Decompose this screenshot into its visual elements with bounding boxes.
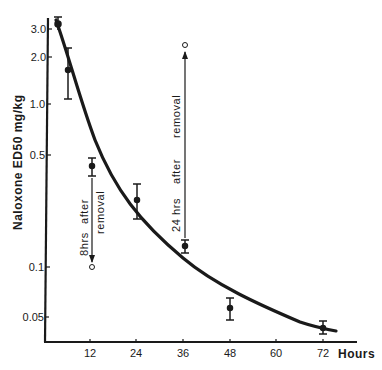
y-tick-label: 3.0: [31, 23, 46, 35]
data-points: [54, 17, 327, 334]
x-axis-title: Hours: [338, 347, 375, 361]
y-tick-label: 0.05: [23, 311, 44, 323]
annotation-text: after: [170, 159, 182, 184]
x-tick-label: 12: [84, 347, 96, 359]
y-axis: [45, 18, 48, 342]
annotation-text: 24 hrs: [170, 198, 182, 232]
x-tick-label: 60: [270, 347, 282, 359]
x-tick-labels: 12 24 36 48 60 72: [84, 347, 329, 359]
x-tick-label: 24: [130, 347, 142, 359]
annotation-8hrs: 8hrs after removal: [78, 178, 106, 270]
annotation-text: 8hrs: [78, 232, 90, 256]
y-tick-label: 0.5: [30, 149, 45, 161]
annotation-24hrs: 24 hrs after removal: [170, 43, 188, 239]
x-tick-label: 48: [224, 347, 236, 359]
annotation-text: removal: [94, 191, 106, 234]
annotation-text: removal: [170, 95, 182, 138]
annotation-text: after: [78, 199, 90, 224]
x-tick-label: 36: [177, 347, 189, 359]
y-tick-label: 1.0: [30, 98, 45, 110]
y-tick-labels: 3.0 2.0 1.0 0.5 0.1 0.05: [23, 23, 46, 323]
fitted-curve: [56, 20, 336, 331]
x-tick-label: 72: [317, 347, 329, 359]
y-axis-title: Naloxone ED50 mg/kg: [11, 94, 25, 230]
chart: 3.0 2.0 1.0 0.5 0.1 0.05 12 24 36 48 60 …: [0, 0, 382, 370]
y-tick-label: 2.0: [31, 51, 46, 63]
y-tick-label: 0.1: [29, 261, 44, 273]
